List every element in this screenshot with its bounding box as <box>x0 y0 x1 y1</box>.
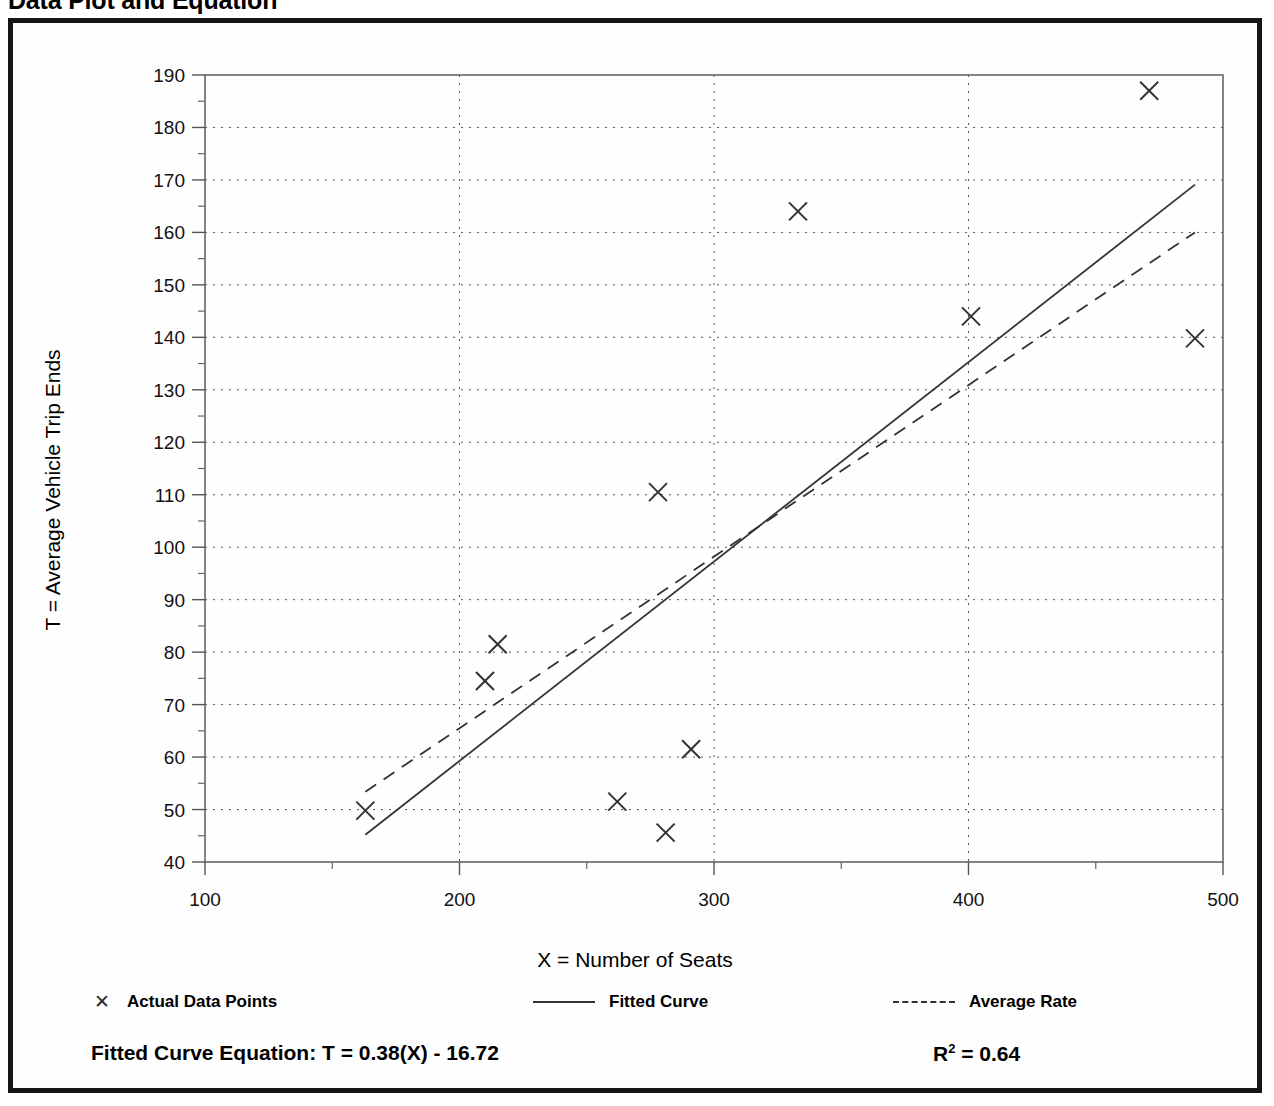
cross-marker-icon: ✕ <box>91 994 113 1010</box>
data-point-marker <box>682 740 700 758</box>
data-point-marker <box>962 307 980 325</box>
equation-row: Fitted Curve Equation: T = 0.38(X) - 16.… <box>13 1041 1257 1081</box>
data-point-marker <box>649 483 667 501</box>
legend-item-average-rate: Average Rate <box>893 992 1077 1012</box>
svg-text:150: 150 <box>153 275 185 296</box>
svg-text:40: 40 <box>164 852 185 873</box>
scatter-plot-svg: 4050607080901001101201301401501601701801… <box>13 23 1257 1098</box>
svg-text:400: 400 <box>953 889 985 910</box>
gridlines-major <box>205 75 1223 862</box>
svg-text:500: 500 <box>1207 889 1239 910</box>
svg-text:170: 170 <box>153 170 185 191</box>
data-point-marker <box>489 635 507 653</box>
series-lines <box>365 185 1195 835</box>
r-squared-symbol: R <box>933 1042 948 1065</box>
r-squared-value: R2 = 0.64 <box>933 1041 1020 1066</box>
svg-text:160: 160 <box>153 222 185 243</box>
svg-text:120: 120 <box>153 432 185 453</box>
r-squared-exponent: 2 <box>948 1041 955 1056</box>
svg-text:200: 200 <box>444 889 476 910</box>
data-point-marker <box>356 802 374 820</box>
svg-text:50: 50 <box>164 800 185 821</box>
axis-ticks <box>192 75 1223 875</box>
data-point-marker <box>608 793 626 811</box>
chart-area: 4050607080901001101201301401501601701801… <box>13 23 1267 1098</box>
svg-text:130: 130 <box>153 380 185 401</box>
chart-legend: ✕ Actual Data Points Fitted Curve Averag… <box>13 988 1257 1028</box>
solid-line-icon <box>533 994 595 1010</box>
data-point-markers <box>356 82 1204 842</box>
data-point-marker <box>476 672 494 690</box>
axis-tick-labels: 4050607080901001101201301401501601701801… <box>153 65 1239 910</box>
svg-text:100: 100 <box>189 889 221 910</box>
legend-label-fitted-curve: Fitted Curve <box>609 992 708 1012</box>
legend-item-actual-data-points: ✕ Actual Data Points <box>91 992 277 1012</box>
svg-text:300: 300 <box>698 889 730 910</box>
legend-item-fitted-curve: Fitted Curve <box>533 992 708 1012</box>
data-point-marker <box>1186 329 1204 347</box>
svg-text:80: 80 <box>164 642 185 663</box>
fitted-curve-equation: Fitted Curve Equation: T = 0.38(X) - 16.… <box>91 1041 499 1065</box>
svg-text:70: 70 <box>164 695 185 716</box>
svg-text:180: 180 <box>153 117 185 138</box>
svg-text:100: 100 <box>153 537 185 558</box>
data-point-marker <box>789 202 807 220</box>
svg-text:190: 190 <box>153 65 185 86</box>
data-point-marker <box>657 824 675 842</box>
legend-label-actual-data-points: Actual Data Points <box>127 992 277 1012</box>
x-axis-title: X = Number of Seats <box>13 948 1257 972</box>
data-point-marker <box>1140 82 1158 100</box>
legend-label-average-rate: Average Rate <box>969 992 1077 1012</box>
dashed-line-icon <box>893 994 955 1010</box>
svg-text:60: 60 <box>164 747 185 768</box>
svg-text:140: 140 <box>153 327 185 348</box>
svg-text:90: 90 <box>164 590 185 611</box>
y-axis-title: T = Average Vehicle Trip Ends <box>41 280 65 700</box>
svg-text:110: 110 <box>155 485 185 506</box>
r-squared-number: = 0.64 <box>961 1042 1020 1065</box>
figure-frame: 4050607080901001101201301401501601701801… <box>8 18 1262 1093</box>
page-title: Data Plot and Equation <box>8 0 277 15</box>
